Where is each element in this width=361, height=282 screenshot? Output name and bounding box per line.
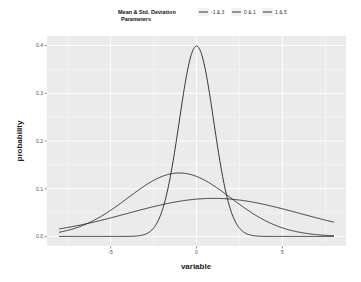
y-tick-label: 0.0	[36, 233, 43, 239]
x-axis: -505	[108, 246, 284, 255]
y-axis-title: probability	[15, 120, 24, 161]
x-tick-label: 0	[195, 249, 198, 255]
legend-label: -1 & 3	[211, 9, 225, 15]
legend-label: 1 & 5	[275, 9, 287, 15]
y-tick-label: 0.3	[36, 90, 43, 96]
y-tick-label: 0.4	[36, 42, 43, 48]
x-axis-title: variable	[181, 262, 212, 271]
legend: Mean & Std. Deviation Parameters -1 & 30…	[118, 8, 287, 22]
legend-title-line-1: Mean & Std. Deviation	[118, 9, 176, 15]
legend-title-line-2: Parameters	[121, 16, 151, 22]
y-tick-label: 0.1	[36, 186, 43, 192]
y-tick-label: 0.2	[36, 138, 43, 144]
x-tick-label: -5	[108, 249, 113, 255]
x-tick-label: 5	[281, 249, 284, 255]
chart: Mean & Std. Deviation Parameters -1 & 30…	[0, 0, 361, 282]
legend-label: 0 & 1	[244, 9, 256, 15]
y-axis: 0.00.10.20.30.4	[36, 42, 47, 239]
